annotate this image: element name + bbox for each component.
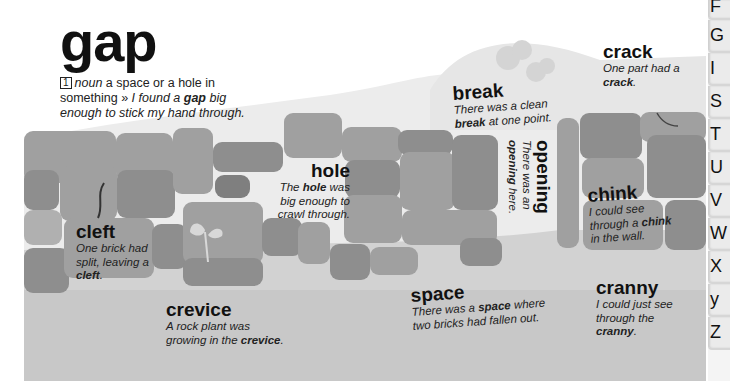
example-pre: One brick had split, leaving a xyxy=(76,242,149,268)
tab-letter[interactable]: y xyxy=(708,284,730,317)
example-pre: I found a xyxy=(132,91,181,105)
synonym-hole: hole The hole was big enough to crawl th… xyxy=(272,161,350,222)
example-pre: One part had a xyxy=(603,62,680,74)
synonym-cleft: cleft One brick had split, leaving a cle… xyxy=(76,222,151,283)
part-of-speech: noun xyxy=(75,76,103,90)
alphabet-thumb-index: F G I S T U V W X y Z xyxy=(708,0,730,381)
crack-mark-icon xyxy=(657,113,678,126)
example-post: in the wall. xyxy=(590,229,645,245)
example-pre: A rock plant was growing in the xyxy=(166,320,250,346)
synonym-cranny: cranny I could just see through the cran… xyxy=(596,278,696,339)
synonym-opening: opening There was an opening here. xyxy=(463,140,553,240)
tab-letter[interactable]: X xyxy=(708,251,730,284)
dictionary-page: gap 1noun a space or a hole in something… xyxy=(0,0,706,381)
example-pre: I could just see through the xyxy=(596,298,673,324)
tab-letter[interactable]: F xyxy=(708,0,730,20)
example-post: . xyxy=(280,334,283,346)
definition: 1noun a space or a hole in something » I… xyxy=(60,76,260,121)
synonym-word: crevice xyxy=(166,300,286,320)
tab-letter[interactable]: V xyxy=(708,185,730,218)
synonym-chink: chink I could see through a chink in the… xyxy=(587,180,676,246)
example-bold: hole xyxy=(303,181,327,193)
example-bold: cleft xyxy=(76,269,100,281)
example-post: at one point. xyxy=(488,111,552,127)
example-bold: break xyxy=(454,115,485,129)
example-post: . xyxy=(100,269,103,281)
example-pre: There was an xyxy=(521,140,533,210)
tab-letter[interactable]: I xyxy=(708,53,730,86)
example-bold: cranny xyxy=(596,325,634,337)
synonym-word: cranny xyxy=(596,278,696,298)
synonym-word: hole xyxy=(272,161,350,181)
example-post: . xyxy=(634,325,637,337)
tab-letter[interactable]: S xyxy=(708,86,730,119)
example-post: . xyxy=(633,76,636,88)
tab-letter[interactable]: W xyxy=(708,218,730,251)
synonym-break: break There was a clean break at one poi… xyxy=(452,76,575,131)
synonym-word: opening xyxy=(533,140,553,240)
synonym-word: crack xyxy=(603,42,703,62)
example-bold: gap xyxy=(184,91,206,105)
headword: gap xyxy=(60,14,157,70)
example-bold: crack xyxy=(603,76,633,88)
synonym-crevice: crevice A rock plant was growing in the … xyxy=(166,300,286,347)
tab-letter[interactable]: U xyxy=(708,152,730,185)
tab-letter[interactable]: T xyxy=(708,119,730,152)
synonym-word: cleft xyxy=(76,222,151,242)
example-bold: chink xyxy=(641,214,672,228)
example-post: here. xyxy=(508,188,520,214)
tab-letter[interactable]: Z xyxy=(708,317,730,350)
example-pre: The xyxy=(280,181,300,193)
sprout-icon xyxy=(190,223,223,262)
example-pre: I could see through a xyxy=(588,202,644,231)
example-separator: » xyxy=(121,91,128,105)
crack-mark-icon xyxy=(98,183,104,218)
example-bold: crevice xyxy=(241,334,281,346)
example-bold: space xyxy=(478,299,511,313)
tab-letter[interactable]: G xyxy=(708,20,730,53)
synonym-crack: crack One part had a crack. xyxy=(603,42,703,89)
example-bold: opening xyxy=(508,140,520,185)
sense-number: 1 xyxy=(60,77,72,89)
